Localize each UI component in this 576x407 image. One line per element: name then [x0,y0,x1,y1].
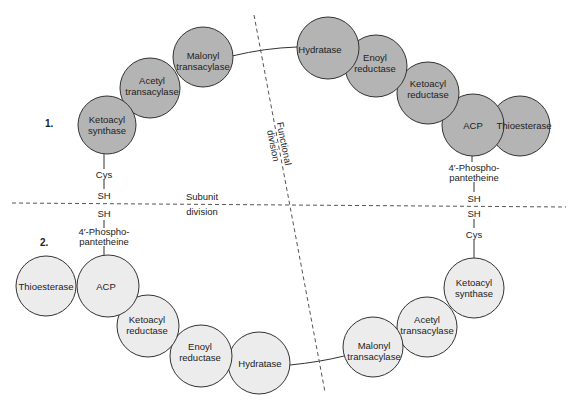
subunit-2-number: 2. [40,237,49,248]
label-kr1-b: reductase [407,89,449,100]
subunit-1-number: 1. [45,118,54,129]
label-er1-b: reductase [354,63,396,74]
fatty-acid-synthase-diagram: Ketoacyl synthase Acetyl transacylase Ma… [0,0,576,407]
label-at2-a: Acetyl [414,314,440,325]
label-cys-2: Cys [466,229,483,240]
label-sh-2-left: SH [97,208,110,219]
label-kr2-b: reductase [126,325,168,336]
subunit-division-line [12,203,566,207]
label-acp2: ACP [96,281,116,292]
label-er2-a: Enoyl [188,341,212,352]
subunit-division-label-1: Subunit [186,191,219,202]
label-acp1: ACP [463,120,483,131]
label-mt2-b: transacylase [347,351,400,362]
label-er1-a: Enoyl [363,52,387,63]
label-at2-b: transacylase [400,325,453,336]
label-hy2: Hydratase [238,358,281,369]
label-mt2-a: Malonyl [358,340,391,351]
label-ks2-b: synthase [455,288,493,299]
label-mt1-b: transacylase [176,61,229,72]
label-ks1-b: synthase [88,125,126,136]
label-cys-1: Cys [96,169,113,180]
label-sh-2-right: SH [467,208,480,219]
linker-top [232,47,297,56]
label-kr1-a: Ketoacyl [410,78,446,89]
label-at1-b: transacylase [125,86,178,97]
label-te2: Thioesterase [19,281,74,292]
label-ks1-a: Ketoacyl [89,114,125,125]
linker-bottom [290,356,344,365]
label-ks2-a: Ketoacyl [456,277,492,288]
label-te1: Thioesterase [497,120,552,131]
label-at1-a: Acetyl [139,75,165,86]
subunit-division-label-2: division [186,206,218,217]
label-mt1-a: Malonyl [187,50,220,61]
label-kr2-a: Ketoacyl [129,314,165,325]
label-pp-1-b: pantetheine [449,172,499,183]
label-sh-1-left: SH [97,190,110,201]
label-pp-2-b: pantetheine [79,236,129,247]
label-er2-b: reductase [179,352,221,363]
label-hy1: Hydratase [298,44,341,55]
label-sh-1-right: SH [467,193,480,204]
